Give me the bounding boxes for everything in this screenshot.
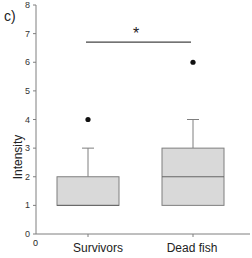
y-tick-label: 5 <box>25 86 30 96</box>
panel-label: c) <box>4 8 16 24</box>
outlier-point <box>190 60 195 65</box>
category-label-dead-fish: Dead fish <box>152 241 232 255</box>
iqr-box <box>57 177 119 206</box>
box-plot: 012345678 <box>0 0 252 258</box>
significance-asterisk: * <box>133 25 139 43</box>
y-tick-label: 7 <box>25 29 30 39</box>
y-tick-label: 4 <box>25 115 30 125</box>
y-tick-label: 1 <box>25 200 30 210</box>
category-label-survivors: Survivors <box>58 241 138 255</box>
y-tick-label: 3 <box>25 143 30 153</box>
y-tick-label: 0 <box>25 229 30 239</box>
outlier-point <box>85 117 90 122</box>
y-tick-label: 2 <box>25 172 30 182</box>
y-axis-label: Intensity <box>11 127 25 187</box>
y-tick-label: 6 <box>25 57 30 67</box>
x-origin-label: 0 <box>33 238 38 248</box>
y-tick-label: 8 <box>25 0 30 10</box>
